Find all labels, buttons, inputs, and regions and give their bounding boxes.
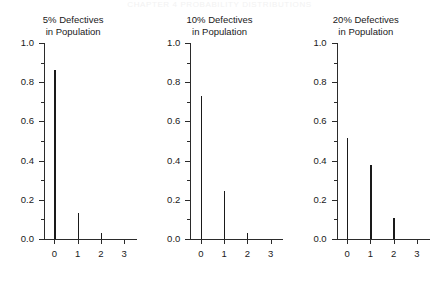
x-axis-tick-label: 1 xyxy=(217,249,231,259)
y-axis-tick-minor xyxy=(334,63,337,64)
x-axis-tick xyxy=(417,239,418,244)
y-axis-tick-major xyxy=(39,239,44,240)
y-axis-tick-major xyxy=(39,82,44,83)
y-axis-tick-major xyxy=(332,82,337,83)
x-axis-tick-label: 0 xyxy=(47,249,61,259)
y-axis-tick-major xyxy=(332,239,337,240)
probability-spike xyxy=(224,191,225,239)
x-axis-line xyxy=(337,239,430,240)
y-axis-tick-minor xyxy=(334,180,337,181)
x-axis-tick-label: 0 xyxy=(194,249,208,259)
y-axis-tick-label: 1.0 xyxy=(296,38,327,48)
x-axis-tick xyxy=(124,239,125,244)
y-axis-tick-major xyxy=(39,161,44,162)
y-axis-tick-label: 0.6 xyxy=(296,116,327,126)
x-axis-line xyxy=(190,239,283,240)
y-axis-tick-minor xyxy=(41,180,44,181)
y-axis-tick-major xyxy=(332,121,337,122)
y-axis-tick-label: 0.6 xyxy=(3,116,34,126)
x-axis-tick-label: 3 xyxy=(264,249,278,259)
plot-area: 0.00.20.40.60.81.00123 xyxy=(0,12,146,281)
y-axis-tick-minor xyxy=(187,219,190,220)
y-axis-tick-major xyxy=(39,200,44,201)
y-axis-tick-label: 0.4 xyxy=(3,156,34,166)
x-axis-tick xyxy=(201,239,202,244)
y-axis-tick-major xyxy=(332,200,337,201)
x-axis-tick xyxy=(271,239,272,244)
y-axis-tick-label: 0.4 xyxy=(296,156,327,166)
chart-panel-1: 5% Defectivesin Population0.00.20.40.60.… xyxy=(0,12,146,281)
y-axis-tick-label: 1.0 xyxy=(3,38,34,48)
y-axis-tick-label: 0.0 xyxy=(149,234,180,244)
probability-spike xyxy=(101,233,102,239)
y-axis-tick-minor xyxy=(187,63,190,64)
y-axis-tick-minor xyxy=(41,63,44,64)
x-axis-tick xyxy=(347,239,348,244)
x-axis-tick xyxy=(247,239,248,244)
y-axis-tick-major xyxy=(185,200,190,201)
y-axis-tick-label: 0.2 xyxy=(296,195,327,205)
x-axis-tick-label: 2 xyxy=(387,249,401,259)
x-axis-line xyxy=(44,239,137,240)
y-axis-tick-minor xyxy=(41,141,44,142)
y-axis-tick-major xyxy=(332,161,337,162)
y-axis-tick-label: 0.6 xyxy=(149,116,180,126)
x-axis-tick-label: 2 xyxy=(94,249,108,259)
y-axis-line xyxy=(44,43,45,239)
y-axis-tick-minor xyxy=(334,219,337,220)
y-axis-tick-major xyxy=(39,43,44,44)
y-axis-tick-label: 0.8 xyxy=(296,77,327,87)
chart-panel-3: 20% Defectivesin Population0.00.20.40.60… xyxy=(293,12,439,281)
y-axis-tick-label: 0.2 xyxy=(3,195,34,205)
y-axis-tick-major xyxy=(185,161,190,162)
y-axis-tick-major xyxy=(185,43,190,44)
x-axis-tick-label: 1 xyxy=(71,249,85,259)
x-axis-tick-label: 1 xyxy=(363,249,377,259)
x-axis-tick xyxy=(224,239,225,244)
x-axis-tick xyxy=(370,239,371,244)
y-axis-tick-minor xyxy=(41,219,44,220)
y-axis-tick-major xyxy=(185,121,190,122)
x-axis-tick-label: 3 xyxy=(410,249,424,259)
page-running-header: CHAPTER 4 PROBABILITY DISTRIBUTIONS xyxy=(0,0,439,10)
y-axis-tick-label: 0.2 xyxy=(149,195,180,205)
probability-spike xyxy=(78,213,79,239)
x-axis-tick xyxy=(394,239,395,244)
y-axis-tick-label: 0.0 xyxy=(3,234,34,244)
probability-spike xyxy=(54,70,55,239)
plot-area: 0.00.20.40.60.81.00123 xyxy=(293,12,439,281)
y-axis-tick-label: 0.4 xyxy=(149,156,180,166)
y-axis-tick-minor xyxy=(334,141,337,142)
x-axis-tick-label: 2 xyxy=(240,249,254,259)
x-axis-tick-label: 3 xyxy=(117,249,131,259)
x-axis-tick xyxy=(78,239,79,244)
y-axis-tick-label: 1.0 xyxy=(149,38,180,48)
y-axis-tick-label: 0.8 xyxy=(149,77,180,87)
x-axis-tick xyxy=(54,239,55,244)
probability-spike xyxy=(201,96,202,239)
y-axis-tick-major xyxy=(185,239,190,240)
y-axis-tick-major xyxy=(39,121,44,122)
y-axis-tick-minor xyxy=(187,180,190,181)
y-axis-tick-minor xyxy=(187,102,190,103)
x-axis-tick xyxy=(101,239,102,244)
y-axis-tick-minor xyxy=(41,102,44,103)
x-axis-tick-label: 0 xyxy=(340,249,354,259)
probability-spike xyxy=(393,218,394,239)
probability-spike xyxy=(347,138,348,239)
binomial-distribution-figure: CHAPTER 4 PROBABILITY DISTRIBUTIONS 5% D… xyxy=(0,0,439,281)
y-axis-tick-label: 0.0 xyxy=(296,234,327,244)
y-axis-tick-label: 0.8 xyxy=(3,77,34,87)
panel-row: 5% Defectivesin Population0.00.20.40.60.… xyxy=(0,12,439,281)
y-axis-tick-minor xyxy=(334,102,337,103)
plot-area: 0.00.20.40.60.81.00123 xyxy=(146,12,292,281)
y-axis-tick-major xyxy=(185,82,190,83)
y-axis-line xyxy=(337,43,338,239)
y-axis-tick-minor xyxy=(187,141,190,142)
probability-spike xyxy=(247,233,248,239)
chart-panel-2: 10% Defectivesin Population0.00.20.40.60… xyxy=(146,12,292,281)
probability-spike xyxy=(370,165,371,239)
y-axis-line xyxy=(190,43,191,239)
y-axis-tick-major xyxy=(332,43,337,44)
